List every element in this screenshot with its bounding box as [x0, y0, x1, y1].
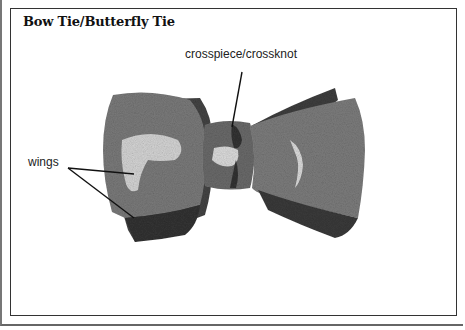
- crosspiece-knot: [203, 121, 255, 190]
- crosspiece-leader-line: [232, 72, 242, 127]
- crosspiece-label: crosspiece/crossknot: [185, 47, 297, 61]
- left-wing: [103, 92, 213, 242]
- wings-label: wings: [28, 155, 59, 169]
- right-wing: [250, 88, 365, 238]
